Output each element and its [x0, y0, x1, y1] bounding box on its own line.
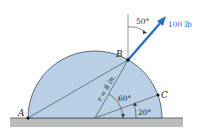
point-a-dot: [26, 116, 29, 119]
label-angle-60: 60°: [118, 94, 132, 103]
mechanics-diagram: A B C 100 lb 50° 60° 20° r = 8 in.: [0, 0, 199, 131]
ground-surface: [10, 118, 183, 127]
point-b-dot: [126, 58, 130, 62]
label-angle-50: 50°: [136, 17, 150, 26]
label-angle-20: 20°: [138, 108, 152, 117]
label-point-b: B: [115, 49, 123, 59]
label-point-a: A: [17, 108, 25, 118]
point-c-dot: [157, 94, 160, 97]
arc-arrowhead-50: [143, 30, 147, 34]
label-force: 100 lb: [168, 20, 192, 29]
label-point-c: C: [161, 90, 168, 100]
